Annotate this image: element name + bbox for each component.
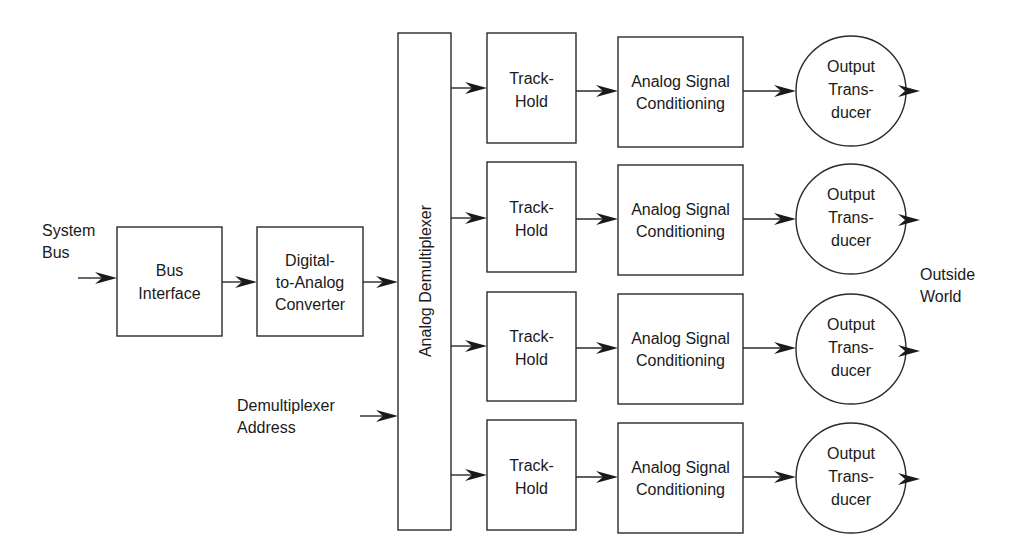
analog-signal-conditioning-block: Analog Signal Conditioning (618, 294, 743, 404)
svg-text:Interface: Interface (138, 285, 200, 302)
track-hold-block: Track- Hold (487, 420, 576, 530)
svg-text:Outside: Outside (920, 266, 975, 283)
svg-text:Conditioning: Conditioning (636, 95, 725, 112)
svg-text:Conditioning: Conditioning (636, 481, 725, 498)
svg-text:System: System (42, 222, 95, 239)
channel-3: Track- Hold Analog Signal Conditioning O… (451, 292, 920, 404)
svg-text:Hold: Hold (515, 222, 548, 239)
svg-text:Conditioning: Conditioning (636, 223, 725, 240)
output-transducer-block: Output Trans- ducer (796, 164, 906, 274)
svg-text:Analog Signal: Analog Signal (631, 459, 730, 476)
svg-text:Analog Signal: Analog Signal (631, 330, 730, 347)
svg-text:Digital-: Digital- (285, 252, 335, 269)
analog-signal-conditioning-block: Analog Signal Conditioning (618, 165, 743, 275)
svg-text:Trans-: Trans- (828, 468, 874, 485)
svg-text:Hold: Hold (515, 480, 548, 497)
system-bus-label: System Bus (42, 222, 95, 261)
svg-text:Address: Address (237, 419, 296, 436)
analog-demultiplexer-block: Analog Demultiplexer (398, 33, 451, 530)
svg-text:Conditioning: Conditioning (636, 352, 725, 369)
svg-text:Track-: Track- (509, 328, 554, 345)
svg-text:Bus: Bus (156, 262, 184, 279)
output-transducer-block: Output Trans- ducer (796, 36, 906, 146)
analog-signal-conditioning-block: Analog Signal Conditioning (618, 37, 743, 147)
bus-to-dac-arrow (222, 276, 257, 288)
svg-text:Analog Signal: Analog Signal (631, 73, 730, 90)
outside-world-label: Outside World (920, 266, 975, 305)
svg-text:Trans-: Trans- (828, 81, 874, 98)
svg-text:Trans-: Trans- (828, 339, 874, 356)
demux-address-label: Demultiplexer Address (237, 397, 335, 436)
output-transducer-block: Output Trans- ducer (796, 294, 906, 404)
demux-address-arrow (360, 410, 398, 422)
svg-text:ducer: ducer (831, 362, 872, 379)
svg-text:Hold: Hold (515, 93, 548, 110)
svg-text:to-Analog: to-Analog (276, 274, 345, 291)
channel-2: Track- Hold Analog Signal Conditioning O… (451, 162, 920, 275)
svg-text:Analog Signal: Analog Signal (631, 201, 730, 218)
output-transducer-block: Output Trans- ducer (796, 423, 906, 533)
svg-text:Track-: Track- (509, 457, 554, 474)
svg-text:Bus: Bus (42, 244, 70, 261)
dac-block: Digital- to-Analog Converter (257, 227, 363, 336)
svg-text:World: World (920, 288, 962, 305)
svg-text:ducer: ducer (831, 104, 872, 121)
svg-text:Hold: Hold (515, 351, 548, 368)
svg-text:Converter: Converter (275, 296, 346, 313)
svg-text:Output: Output (827, 316, 876, 333)
svg-text:Output: Output (827, 445, 876, 462)
svg-text:Output: Output (827, 186, 876, 203)
svg-text:Analog Demultiplexer: Analog Demultiplexer (417, 204, 434, 357)
channel-1: Track- Hold Analog Signal Conditioning O… (451, 33, 920, 147)
bus-interface-block: Bus Interface (117, 227, 222, 336)
track-hold-block: Track- Hold (487, 162, 576, 272)
track-hold-block: Track- Hold (487, 292, 576, 401)
svg-text:ducer: ducer (831, 491, 872, 508)
system-bus-arrow (78, 272, 117, 284)
svg-text:Track-: Track- (509, 199, 554, 216)
svg-text:Trans-: Trans- (828, 209, 874, 226)
svg-text:ducer: ducer (831, 232, 872, 249)
channel-4: Track- Hold Analog Signal Conditioning O… (451, 420, 920, 533)
dac-to-demux-arrow (363, 276, 398, 288)
block-diagram: System Bus Bus Interface Digital- to-Ana… (0, 0, 1030, 559)
svg-text:Output: Output (827, 58, 876, 75)
analog-signal-conditioning-block: Analog Signal Conditioning (618, 423, 743, 533)
track-hold-block: Track- Hold (487, 33, 576, 143)
svg-text:Track-: Track- (509, 70, 554, 87)
svg-text:Demultiplexer: Demultiplexer (237, 397, 335, 414)
